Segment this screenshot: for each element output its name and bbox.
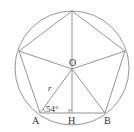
- radius-to-left: [19, 51, 72, 69]
- pentagon-diagram: O r 54° A H B: [0, 0, 134, 132]
- radius-to-right: [72, 51, 125, 69]
- angle-arc: [43, 109, 45, 113]
- label-h: H: [68, 115, 75, 126]
- label-b: B: [104, 115, 111, 126]
- label-angle: 54°: [46, 104, 59, 114]
- label-a: A: [32, 115, 40, 126]
- label-o: O: [69, 57, 76, 68]
- label-r: r: [48, 83, 52, 93]
- radius-ob: [72, 69, 105, 113]
